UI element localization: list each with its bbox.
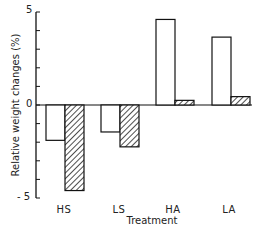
bar-ls-open (101, 105, 120, 132)
bar-hs-hatched (65, 105, 84, 191)
bar-la-hatched (231, 97, 250, 105)
ytick-label-neg5: - 5 (17, 191, 30, 202)
y-axis-title: Relative weight changes (%) (10, 34, 21, 177)
bar-ls-hatched (120, 105, 139, 147)
bar-chart: 5 0 - 5 HS LS HA LA Treatment Relative w… (0, 0, 254, 233)
ytick-label-0: 0 (26, 98, 32, 109)
xtick-label-la: LA (222, 204, 236, 215)
xtick-label-ha: HA (165, 204, 180, 215)
bar-hs-open (46, 105, 65, 140)
plot-area (0, 0, 254, 233)
bar-ha-open (156, 19, 175, 105)
bar-la-open (212, 37, 231, 105)
xtick-label-ls: LS (113, 204, 126, 215)
bar-ha-hatched (175, 100, 194, 105)
ytick-label-5: 5 (26, 4, 32, 15)
x-axis-title: Treatment (127, 215, 178, 226)
xtick-label-hs: HS (57, 204, 72, 215)
